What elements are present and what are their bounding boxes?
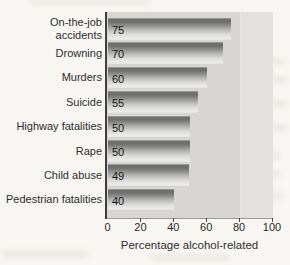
category-label: Suicide (0, 91, 102, 113)
x-axis-title: Percentage alcohol-related (107, 239, 272, 251)
bar-value-label: 50 (112, 146, 124, 159)
bar-row: Highway fatalities50 (0, 116, 290, 138)
category-label: Highway fatalities (0, 116, 102, 138)
category-label: Child abuse (0, 164, 102, 186)
x-tick-label: 40 (158, 221, 188, 233)
x-tick-label: 60 (191, 221, 221, 233)
bar-row: Suicide55 (0, 91, 290, 113)
x-tick-label: 20 (125, 221, 155, 233)
bar: 60 (108, 67, 207, 89)
bar-value-label: 40 (112, 195, 124, 208)
bar-value-label: 75 (112, 24, 124, 37)
bar-value-label: 50 (112, 122, 124, 135)
page-bleedthrough (30, 0, 150, 5)
x-tick-label: 80 (224, 221, 254, 233)
bar: 75 (108, 18, 231, 40)
bar: 70 (108, 42, 223, 64)
category-label: Rape (0, 140, 102, 162)
bar-row: Pedestrian fatalities40 (0, 189, 290, 211)
bar-value-label: 60 (112, 73, 124, 86)
bar-row: Murders60 (0, 67, 290, 89)
x-tick-label: 100 (257, 221, 287, 233)
bar: 40 (108, 189, 174, 211)
category-label: Drowning (0, 42, 102, 64)
page-bleedthrough (2, 250, 88, 258)
x-tick-label: 0 (93, 221, 123, 233)
figure: On-the-jobaccidents75Drowning70Murders60… (0, 0, 290, 265)
category-label: On-the-jobaccidents (0, 18, 102, 40)
bar-row: Drowning70 (0, 42, 290, 64)
bar-row: Rape50 (0, 140, 290, 162)
bar: 55 (108, 91, 198, 113)
bar-row: Child abuse49 (0, 164, 290, 186)
category-label: Pedestrian fatalities (0, 189, 102, 211)
bar: 50 (108, 140, 190, 162)
page-bleedthrough (150, 254, 230, 261)
bar-value-label: 55 (112, 97, 124, 110)
bar: 50 (108, 116, 190, 138)
bar-row: On-the-jobaccidents75 (0, 18, 290, 40)
category-label: Murders (0, 67, 102, 89)
bar-value-label: 70 (112, 48, 124, 61)
bar: 49 (108, 164, 189, 186)
bar-value-label: 49 (112, 170, 124, 183)
